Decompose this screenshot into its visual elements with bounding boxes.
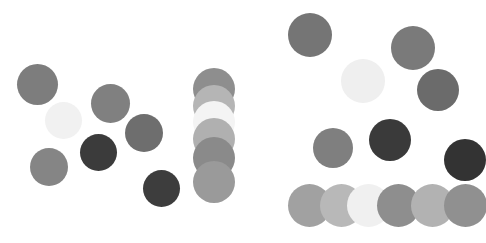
dot-l6 <box>125 114 163 152</box>
figure-canvas <box>0 0 486 243</box>
dot-r5 <box>313 128 353 168</box>
dot-l3 <box>91 84 130 123</box>
dot-r1 <box>288 13 332 57</box>
dot-r3 <box>341 59 385 103</box>
dot-r6 <box>369 119 411 161</box>
dot-l5 <box>30 148 68 186</box>
dot-l7 <box>143 170 180 207</box>
dot-l2 <box>45 102 82 139</box>
dot-r4 <box>417 69 459 111</box>
dot-l1 <box>17 64 58 105</box>
dot-r7 <box>444 139 486 181</box>
dot-r2 <box>391 26 435 70</box>
dot-l4 <box>80 134 117 171</box>
dot-b6 <box>444 184 486 227</box>
dot-c6 <box>193 161 235 203</box>
